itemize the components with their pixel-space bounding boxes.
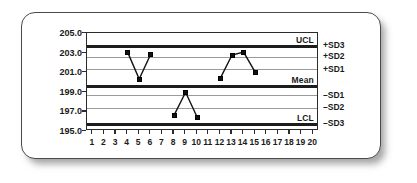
x-axis-tick [114, 130, 115, 134]
y-axis-label: 203.0 [42, 49, 82, 58]
sigma-label-column: +SD3 +SD2 +SD1 –SD1 –SD2 –SD3 [323, 13, 379, 160]
y-axis-label: 195.0 [42, 127, 82, 136]
y-axis-tick [82, 130, 86, 131]
x-axis-tick [219, 130, 220, 134]
sigma-label-plus-sd1: +SD1 [323, 65, 345, 74]
x-axis-tick [138, 130, 139, 134]
x-axis-tick [207, 130, 208, 134]
x-axis-tick [184, 130, 185, 134]
x-axis-tick [254, 130, 255, 134]
data-point-marker [183, 90, 188, 95]
x-axis-tick [161, 130, 162, 134]
x-axis-tick [172, 130, 173, 134]
data-point-marker [241, 50, 246, 55]
data-point-marker [253, 70, 258, 75]
sigma-label-plus-sd2: +SD2 [323, 52, 345, 61]
x-axis-tick [91, 130, 92, 134]
y-axis: 205.0 203.0 201.0 199.0 197.0 195.0 [36, 13, 82, 160]
y-axis-label: 201.0 [42, 68, 82, 77]
x-axis-tick [288, 130, 289, 134]
x-axis-tick [265, 130, 266, 134]
data-point-marker [172, 113, 177, 118]
x-axis-tick [149, 130, 150, 134]
x-axis-tick [300, 130, 301, 134]
x-axis-tick [230, 130, 231, 134]
data-point-marker [137, 77, 142, 82]
x-axis-label: 20 [303, 138, 321, 147]
y-axis-label: 199.0 [42, 88, 82, 97]
data-point-marker [125, 50, 130, 55]
y-axis-label: 205.0 [42, 29, 82, 38]
sigma-label-minus-sd2: –SD2 [323, 103, 344, 112]
sigma-label-minus-sd3: –SD3 [323, 119, 344, 128]
x-axis-tick [312, 130, 313, 134]
y-axis-label: 197.0 [42, 107, 82, 116]
data-point-marker [230, 53, 235, 58]
data-point-marker [148, 52, 153, 57]
x-axis-tick [277, 130, 278, 134]
series-lines [87, 33, 318, 130]
x-axis-tick [126, 130, 127, 134]
sigma-label-plus-sd3: +SD3 [323, 41, 345, 50]
sigma-label-minus-sd1: –SD1 [323, 91, 344, 100]
data-point-marker [195, 115, 200, 120]
x-axis-tick [196, 130, 197, 134]
x-axis-tick [103, 130, 104, 134]
data-point-marker [218, 76, 223, 81]
plot-area: UCL Mean LCL [86, 32, 318, 130]
x-axis-tick [242, 130, 243, 134]
control-chart: 205.0 203.0 201.0 199.0 197.0 195.0 UCL … [22, 13, 382, 160]
chart-card: 205.0 203.0 201.0 199.0 197.0 195.0 UCL … [21, 12, 381, 159]
